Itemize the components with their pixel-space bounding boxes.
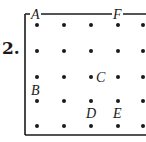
point-labels: AFBCDE (30, 7, 123, 121)
grid-dot (62, 49, 66, 53)
grid-dot (89, 49, 93, 53)
grid-dot (141, 99, 145, 103)
grid-dot (35, 23, 39, 27)
grid-dot (35, 75, 39, 79)
grid-dot (62, 99, 66, 103)
point-label-f: F (112, 7, 122, 22)
dot-grid-figure: 2. AFBCDE (0, 0, 146, 142)
grid-dot (141, 49, 145, 53)
point-label-c: C (96, 70, 106, 85)
grid-dot (89, 75, 93, 79)
grid-dot (141, 75, 145, 79)
point-label-b: B (31, 83, 40, 98)
grid-dot (62, 23, 66, 27)
grid-dot (141, 23, 145, 27)
grid-dot (62, 75, 66, 79)
grid-dot (35, 49, 39, 53)
grid-dot (89, 124, 93, 128)
point-label-a: A (30, 7, 40, 22)
grid-dot (89, 99, 93, 103)
grid-dot (62, 124, 66, 128)
grid-dot (89, 23, 93, 27)
grid-dot (35, 124, 39, 128)
point-label-e: E (112, 106, 122, 121)
grid-dot (116, 49, 120, 53)
grid-dot (116, 75, 120, 79)
point-label-d: D (85, 106, 96, 121)
grid-dot (116, 23, 120, 27)
grid-dot (116, 99, 120, 103)
grid-dot (141, 124, 145, 128)
grid-dot (116, 124, 120, 128)
grid-dot (35, 99, 39, 103)
dot-grid-diagram: AFBCDE (0, 0, 146, 142)
